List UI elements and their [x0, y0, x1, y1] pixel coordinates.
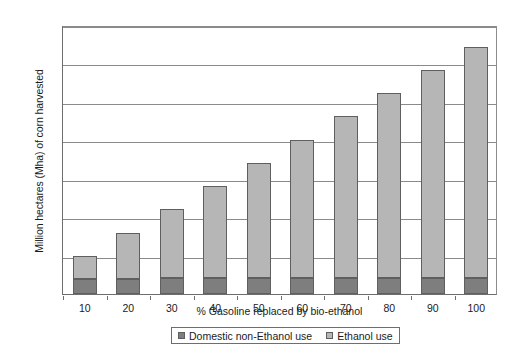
x-tick-mark [237, 296, 238, 300]
x-tick-mark [150, 296, 151, 300]
bar-column[interactable] [247, 163, 271, 294]
bar-segment-ethanol-use[interactable] [73, 256, 97, 279]
bar-segment-domestic-non-ethanol-use[interactable] [203, 278, 227, 294]
bar-segment-ethanol-use[interactable] [203, 186, 227, 278]
stacked-bar-chart: Million hectares (Mha) of corn harvested… [0, 0, 517, 360]
bar-segment-ethanol-use[interactable] [247, 163, 271, 278]
bar-segment-ethanol-use[interactable] [464, 47, 488, 278]
legend-swatch-icon [326, 332, 333, 339]
bar-segment-ethanol-use[interactable] [160, 209, 184, 278]
bar-segment-domestic-non-ethanol-use[interactable] [73, 279, 97, 294]
bar-segment-ethanol-use[interactable] [290, 140, 314, 278]
bar-column[interactable] [377, 93, 401, 294]
x-tick-mark [455, 296, 456, 300]
chart-legend: Domestic non-Ethanol useEthanol use [171, 327, 400, 344]
x-tick-mark [324, 296, 325, 300]
bar-column[interactable] [421, 70, 445, 294]
x-tick-mark [281, 296, 282, 300]
bars-layer [63, 27, 496, 294]
bar-segment-ethanol-use[interactable] [334, 116, 358, 278]
legend-swatch-icon [178, 332, 185, 339]
bar-column[interactable] [116, 233, 140, 294]
bar-column[interactable] [464, 47, 488, 294]
legend-label: Domestic non-Ethanol use [189, 330, 312, 342]
bar-segment-domestic-non-ethanol-use[interactable] [377, 278, 401, 294]
bar-segment-domestic-non-ethanol-use[interactable] [247, 278, 271, 294]
legend-item[interactable]: Ethanol use [326, 330, 392, 342]
x-tick-mark [194, 296, 195, 300]
bar-segment-domestic-non-ethanol-use[interactable] [334, 278, 358, 294]
bar-column[interactable] [203, 186, 227, 294]
x-tick-mark [411, 296, 412, 300]
x-tick-mark [63, 296, 64, 300]
bar-column[interactable] [73, 256, 97, 294]
x-axis-title: % Gasoline replaced by bio-ethanol [62, 305, 497, 317]
x-tick-mark [368, 296, 369, 300]
bar-segment-domestic-non-ethanol-use[interactable] [464, 278, 488, 294]
bar-segment-domestic-non-ethanol-use[interactable] [421, 278, 445, 294]
legend-label: Ethanol use [337, 330, 392, 342]
x-tick-mark [107, 296, 108, 300]
bar-column[interactable] [290, 140, 314, 294]
bar-column[interactable] [334, 116, 358, 294]
bar-segment-ethanol-use[interactable] [116, 233, 140, 279]
y-axis-title: Million hectares (Mha) of corn harvested [33, 36, 45, 286]
bar-column[interactable] [160, 209, 184, 294]
bar-segment-ethanol-use[interactable] [421, 70, 445, 278]
plot-area: 050100150200250300350 102030405060708090… [62, 26, 497, 295]
legend-item[interactable]: Domestic non-Ethanol use [178, 330, 312, 342]
bar-segment-ethanol-use[interactable] [377, 93, 401, 278]
bar-segment-domestic-non-ethanol-use[interactable] [116, 279, 140, 294]
bar-segment-domestic-non-ethanol-use[interactable] [160, 278, 184, 294]
bar-segment-domestic-non-ethanol-use[interactable] [290, 278, 314, 294]
